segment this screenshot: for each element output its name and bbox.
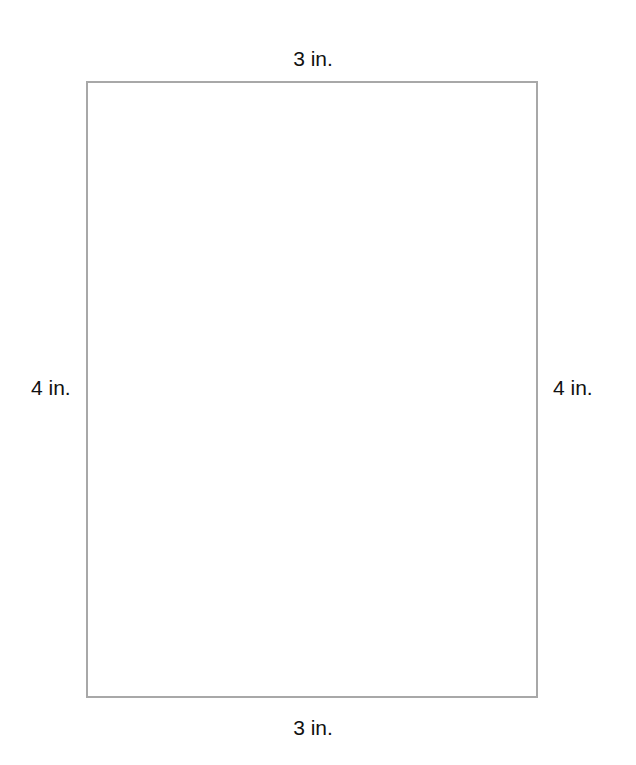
right-side-label: 4 in. — [553, 377, 593, 398]
top-side-label: 3 in. — [293, 48, 333, 69]
rectangle-shape — [86, 81, 538, 698]
left-side-label: 4 in. — [31, 377, 71, 398]
bottom-side-label: 3 in. — [293, 717, 333, 738]
